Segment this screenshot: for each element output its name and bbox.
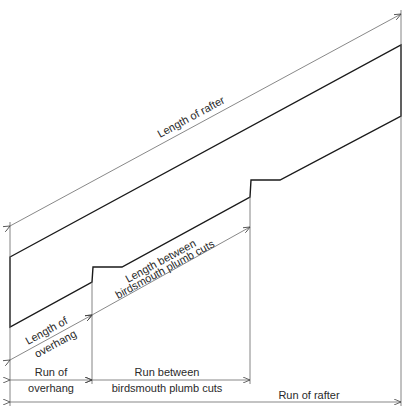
length-of-rafter-dimension (10, 14, 401, 226)
run-of-rafter-label: Run of rafter (278, 389, 339, 401)
rafter-outline (10, 45, 401, 327)
run-of-overhang-label-1: Run of (35, 366, 68, 378)
length-of-rafter-label: Length of rafter (155, 93, 227, 139)
run-between-label-1: Run between (135, 366, 200, 378)
run-between-label-2: birdsmouth plumb cuts (112, 382, 223, 394)
length-between-label-2: birdsmouth plumb cuts (113, 237, 216, 301)
diagram-canvas: Length of rafter Length between birdsmou… (0, 0, 411, 411)
run-of-overhang-label-2: overhang (28, 382, 74, 394)
rafter-diagram: Length of rafter Length between birdsmou… (0, 0, 411, 411)
